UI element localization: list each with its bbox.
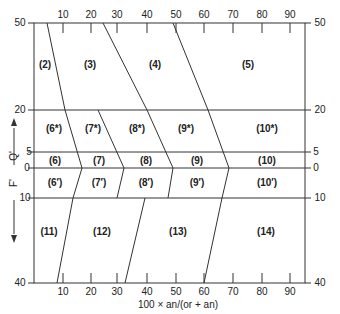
region-9: (9): [191, 155, 203, 167]
y-label-right: 10: [314, 192, 325, 204]
f-prime-label: F': [8, 179, 20, 187]
x-tick-top: 90: [284, 9, 295, 21]
region-4: (4): [149, 59, 161, 71]
boundary-line-e: [125, 198, 145, 283]
region-7-star: (7*): [85, 123, 101, 135]
x-tick-top: 60: [198, 9, 209, 21]
region-8-star: (8*): [129, 123, 145, 135]
x-tick-bottom: 90: [284, 286, 295, 298]
y-label-left: 5: [26, 146, 32, 158]
region-9-star: (9*): [178, 123, 194, 135]
x-tick-top: 50: [170, 9, 181, 21]
q-prime-label: Q': [8, 151, 20, 161]
arrow-down-icon: [11, 235, 17, 243]
y-label-right: 5: [313, 146, 319, 158]
y-label-left: 20: [14, 104, 25, 116]
y-label-left: 40: [14, 277, 25, 289]
y-label-right: 0: [313, 162, 319, 174]
x-tick-top: 80: [256, 9, 267, 21]
x-tick-bottom: 40: [141, 286, 152, 298]
region-8-prime: (8′): [139, 177, 154, 189]
region-5: (5): [242, 59, 254, 71]
y-label-left: 50: [14, 17, 25, 29]
region-6-prime: (6′): [48, 177, 63, 189]
region-7: (7): [93, 155, 105, 167]
x-tick-bottom: 30: [111, 286, 122, 298]
y-label-right: 50: [314, 17, 325, 29]
boundary-line-a: [47, 23, 82, 283]
region-12: (12): [93, 226, 111, 238]
plot-frame: [34, 23, 305, 283]
x-tick-bottom: 10: [57, 286, 68, 298]
x-tick-top: 40: [141, 9, 152, 21]
y-label-right: 20: [314, 104, 325, 116]
x-tick-bottom: 70: [227, 286, 238, 298]
x-tick-top: 10: [57, 9, 68, 21]
region-9-prime: (9′): [190, 177, 205, 189]
y-label-left: 0: [24, 162, 30, 174]
x-tick-top: 30: [111, 9, 122, 21]
y-label-left: 10: [19, 192, 30, 204]
x-tick-bottom: 50: [170, 286, 181, 298]
x-axis-title: 100 × an/(or + an): [138, 299, 218, 311]
region-13: (13): [169, 226, 187, 238]
region-3: (3): [84, 59, 96, 71]
x-tick-top: 20: [85, 9, 96, 21]
x-tick-bottom: 20: [85, 286, 96, 298]
region-6: (6): [49, 155, 61, 167]
x-tick-top: 70: [227, 9, 238, 21]
region-11: (11): [40, 226, 57, 238]
qapf-classification-diagram: 10 20 30 40 50 60 70 80 90 10 20 30 40 5…: [0, 0, 340, 314]
arrow-up-icon: [11, 118, 17, 126]
x-tick-bottom: 60: [198, 286, 209, 298]
boundary-line-d: [173, 23, 229, 283]
region-2: (2): [39, 59, 51, 71]
region-10-prime: (10′): [257, 177, 277, 189]
x-tick-bottom: 80: [256, 286, 267, 298]
region-8: (8): [140, 155, 152, 167]
region-10: (10): [258, 155, 276, 167]
region-6-star: (6*): [46, 123, 62, 135]
region-7-prime: (7′): [92, 177, 107, 189]
region-10-star: (10*): [256, 123, 278, 135]
y-label-right: 40: [314, 277, 325, 289]
region-14: (14): [257, 226, 275, 238]
boundary-line-b-top: [103, 23, 147, 110]
